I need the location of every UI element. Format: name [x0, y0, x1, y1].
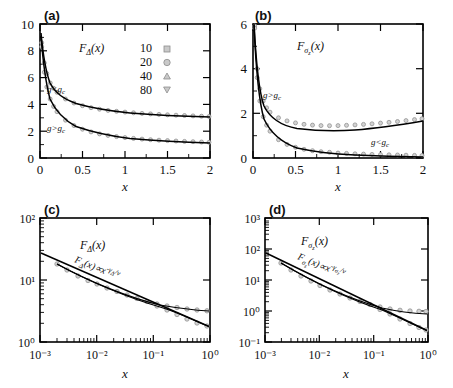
panel-b: (b) 0 2 4 6 [225, 0, 453, 196]
panel-a-xtick-15: 1.5 [159, 162, 175, 177]
panel-b-curve-label-upper: g>gc [263, 90, 282, 102]
panel-d-label: (d) [269, 202, 286, 217]
panel-b-ytick-0: 0 [241, 151, 248, 166]
panel-a: (a) 0 [0, 0, 228, 196]
panel-a-ytick-10: 10 [21, 17, 34, 32]
panel-b-curve-upper [254, 24, 423, 131]
panel-c-xtick-1e-2: 10⁻² [86, 348, 108, 362]
panel-c-frame [40, 218, 210, 342]
panel-b-ytick-6: 6 [241, 17, 248, 32]
panel-c-ytick-1e2: 10² [19, 212, 35, 226]
panel-d-xtick-1e-1: 10⁻¹ [363, 348, 385, 362]
panel-d-branch-lower [281, 263, 427, 331]
legend-marker-triangle-up [164, 73, 171, 79]
panel-d-ytick-1e3: 10³ [244, 212, 260, 226]
legend-label-40: 40 [140, 69, 152, 83]
panel-c-annotation: FΔ(x)∝x-γΔ/ν [71, 251, 122, 284]
panel-d-x-axis: 10⁻³ 10⁻² 10⁻¹ 10⁰ x [254, 218, 436, 381]
panel-c: (c) [0, 192, 228, 388]
panel-b-function-label: Fσz(x) [296, 39, 324, 56]
legend-label-80: 80 [140, 83, 152, 97]
panel-b-xtick-1: 1 [335, 162, 342, 177]
legend-marker-circle [164, 59, 170, 65]
panel-c-data-markers [55, 262, 209, 328]
panel-c-x-axis: 10⁻³ 10⁻² 10⁻¹ 10⁰ x [29, 218, 218, 381]
panel-a-ytick-4: 4 [28, 97, 35, 112]
panel-b-xtick-15: 1.5 [372, 162, 388, 177]
panel-a-ytick-2: 2 [28, 124, 35, 139]
panel-a-curve-upper [41, 33, 210, 117]
panel-d-data-markers [279, 261, 428, 332]
panel-c-xtick-1e0: 10⁰ [202, 348, 219, 362]
panel-d-function-label: Fσz(x) [300, 234, 328, 251]
legend-label-20: 20 [140, 55, 152, 69]
panel-d-ytick-1e2: 10² [244, 243, 260, 257]
panel-b-xtick-2: 2 [420, 162, 427, 177]
panel-d-xtick-1e0: 10⁰ [420, 348, 437, 362]
panel-c-xtick-1e-3: 10⁻³ [29, 348, 51, 362]
panel-b-curve-label-lower: g<gc [371, 137, 390, 149]
panel-b-ytick-2: 2 [241, 106, 248, 121]
panel-d-xlabel: x [342, 366, 349, 381]
panel-c-function-label: FΔ(x) [79, 238, 105, 254]
panel-a-function-label: FΔ(x) [78, 41, 104, 57]
panel-c-branch-lower [57, 264, 209, 327]
panel-a-x-axis: 0 0.5 1 1.5 2 x [37, 24, 214, 194]
panel-d-frame [265, 218, 428, 342]
legend: 10 20 40 80 [140, 41, 170, 97]
panel-b-x-axis: 0 0.5 1 1.5 2 x [250, 24, 427, 194]
panel-a-label: (a) [44, 8, 60, 23]
panel-a-ytick-8: 8 [28, 43, 35, 58]
panel-b-xtick-05: 0.5 [287, 162, 303, 177]
figure-panel-grid: (a) 0 [0, 0, 453, 388]
panel-c-label: (c) [44, 202, 60, 217]
panel-a-ytick-6: 6 [28, 70, 35, 85]
panel-a-curve-lower [41, 36, 210, 143]
panel-a-xtick-1: 1 [122, 162, 129, 177]
panel-b-ytick-4: 4 [241, 61, 248, 76]
panel-d-xtick-1e-3: 10⁻³ [254, 348, 276, 362]
panel-d-y-axis: 10⁻¹ 10⁰ 10¹ 10² 10³ [238, 212, 428, 350]
panel-a-data-markers [40, 41, 211, 145]
svg-text:FΔ(x)∝x-γΔ/ν: FΔ(x)∝x-γΔ/ν [71, 251, 122, 284]
panel-d: (d) [225, 192, 453, 388]
panel-a-xtick-0: 0 [37, 162, 44, 177]
panel-c-xtick-1e-1: 10⁻¹ [142, 348, 164, 362]
panel-c-xlabel: x [121, 366, 128, 381]
panel-b-xtick-0: 0 [250, 162, 257, 177]
panel-d-xtick-1e-2: 10⁻² [308, 348, 330, 362]
legend-marker-square [164, 46, 170, 52]
legend-marker-triangle-down [164, 87, 171, 93]
panel-a-ytick-0: 0 [28, 151, 35, 166]
panel-d-ytick-1e1: 10¹ [244, 274, 260, 288]
panel-c-branch-upper [57, 264, 209, 311]
panel-a-xtick-2: 2 [207, 162, 214, 177]
legend-label-10: 10 [140, 41, 152, 55]
panel-c-ytick-1e1: 10¹ [19, 274, 35, 288]
panel-b-label: (b) [255, 8, 272, 23]
panel-c-y-axis: 10⁰ 10¹ 10² [18, 212, 210, 350]
panel-a-curve-label-lower: g>gc [47, 123, 66, 135]
panel-b-curve-lower [254, 25, 423, 157]
panel-a-xtick-05: 0.5 [74, 162, 90, 177]
panel-d-ytick-1e0: 10⁰ [243, 305, 260, 319]
